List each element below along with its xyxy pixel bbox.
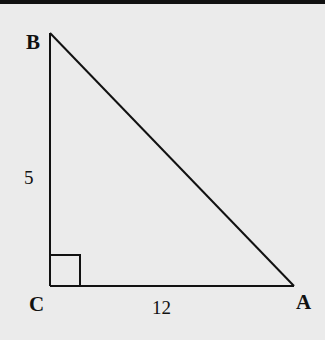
- vertex-label-b: B: [26, 32, 40, 53]
- right-angle-marker: [50, 255, 80, 286]
- side-ab-hypotenuse: [50, 33, 294, 286]
- vertex-label-c: C: [29, 294, 44, 315]
- side-label-bc: 5: [24, 168, 34, 187]
- side-label-ca: 12: [152, 298, 171, 317]
- vertex-label-a: A: [296, 292, 311, 313]
- right-triangle-diagram: [0, 0, 325, 340]
